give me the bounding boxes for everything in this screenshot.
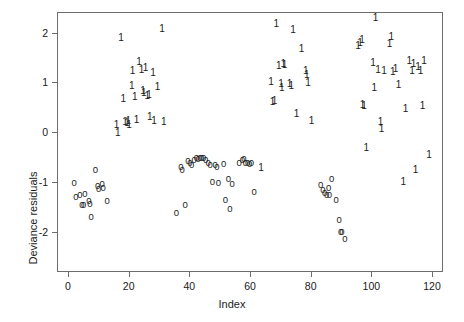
data-point-0: 0: [104, 196, 109, 206]
data-point-1: 1: [379, 124, 385, 134]
data-point-0: 0: [229, 179, 234, 189]
data-point-0: 0: [249, 158, 254, 168]
data-point-0: 0: [342, 234, 347, 244]
data-point-1: 1: [155, 82, 161, 92]
data-point-0: 0: [329, 174, 334, 184]
data-point-1: 1: [290, 25, 296, 35]
data-point-0: 0: [214, 162, 219, 172]
data-point-1: 1: [282, 60, 288, 70]
x-tick: [311, 272, 312, 277]
y-tick-label: 1: [18, 76, 48, 88]
data-point-1: 1: [126, 120, 132, 130]
data-point-1: 1: [159, 24, 165, 34]
data-point-1: 1: [161, 117, 167, 127]
data-point-0: 0: [179, 165, 184, 175]
y-axis-title-wrap: Deviance residuals: [8, 70, 22, 215]
data-point-1: 1: [294, 109, 300, 119]
y-tick: [52, 33, 57, 34]
x-tick-label: 60: [230, 280, 270, 292]
x-tick: [68, 272, 69, 277]
data-point-1: 1: [426, 150, 432, 160]
x-tick: [371, 272, 372, 277]
data-point-0: 0: [333, 195, 338, 205]
data-point-0: 0: [174, 208, 179, 218]
data-point-0: 0: [221, 159, 226, 169]
data-point-1: 1: [359, 35, 365, 45]
data-point-1: 1: [299, 44, 305, 54]
data-point-0: 0: [327, 190, 332, 200]
data-point-0: 0: [88, 212, 93, 222]
data-point-1: 1: [120, 94, 126, 104]
data-point-0: 0: [93, 165, 98, 175]
x-tick: [129, 272, 130, 277]
data-point-1: 1: [396, 80, 402, 90]
data-point-1: 1: [132, 92, 138, 102]
data-point-1: 1: [134, 115, 140, 125]
x-tick: [189, 272, 190, 277]
data-point-1: 1: [361, 101, 367, 111]
data-point-1: 1: [118, 33, 124, 43]
data-point-1: 1: [363, 143, 369, 153]
data-point-1: 1: [288, 81, 294, 91]
data-point-1: 1: [268, 77, 274, 87]
data-point-0: 0: [210, 177, 215, 187]
data-point-1: 1: [413, 165, 419, 175]
y-tick-label: 2: [18, 27, 48, 39]
data-point-1: 1: [400, 177, 406, 187]
data-point-1: 1: [418, 66, 424, 76]
x-tick-label: 0: [48, 280, 88, 292]
data-point-1: 1: [151, 116, 157, 126]
data-point-1: 1: [309, 116, 315, 126]
x-axis-title: Index: [0, 298, 464, 310]
data-point-0: 0: [216, 178, 221, 188]
data-point-0: 0: [101, 183, 106, 193]
x-tick-label: 120: [412, 280, 452, 292]
data-point-1: 1: [130, 66, 136, 76]
y-tick-label: 0: [18, 126, 48, 138]
y-tick: [52, 132, 57, 133]
plot-area: 0000000000000000000000000000000000000000…: [57, 12, 443, 272]
data-point-1: 1: [373, 13, 379, 23]
data-point-1: 1: [420, 101, 426, 111]
data-point-1: 1: [272, 96, 278, 106]
data-point-0: 0: [71, 178, 76, 188]
x-tick-label: 80: [291, 280, 331, 292]
data-point-0: 0: [252, 187, 257, 197]
data-point-0: 0: [337, 215, 342, 225]
x-tick-label: 100: [351, 280, 391, 292]
data-point-0: 0: [87, 199, 92, 209]
x-tick-label: 20: [109, 280, 149, 292]
data-point-1: 1: [146, 90, 152, 100]
chart-root: 0000000000000000000000000000000000000000…: [0, 0, 464, 322]
data-point-0: 0: [227, 204, 232, 214]
y-axis-title: Deviance residuals: [27, 148, 39, 288]
data-point-1: 1: [115, 128, 121, 138]
data-point-1: 1: [389, 32, 395, 42]
data-point-1: 1: [381, 66, 387, 76]
y-tick: [52, 232, 57, 233]
data-point-1: 1: [279, 83, 285, 93]
data-point-1: 1: [421, 56, 427, 66]
data-point-1: 1: [150, 68, 156, 78]
x-tick-label: 40: [169, 280, 209, 292]
data-point-0: 0: [182, 200, 187, 210]
data-point-1: 1: [403, 104, 409, 114]
x-tick: [432, 272, 433, 277]
data-point-1: 1: [258, 163, 264, 173]
y-tick: [52, 182, 57, 183]
data-point-1: 1: [375, 65, 381, 75]
data-point-1: 1: [305, 78, 311, 88]
x-tick: [250, 272, 251, 277]
data-point-1: 1: [274, 19, 280, 29]
data-point-1: 1: [143, 63, 149, 73]
data-point-1: 1: [393, 64, 399, 74]
y-tick: [52, 82, 57, 83]
data-point-1: 1: [372, 83, 378, 93]
